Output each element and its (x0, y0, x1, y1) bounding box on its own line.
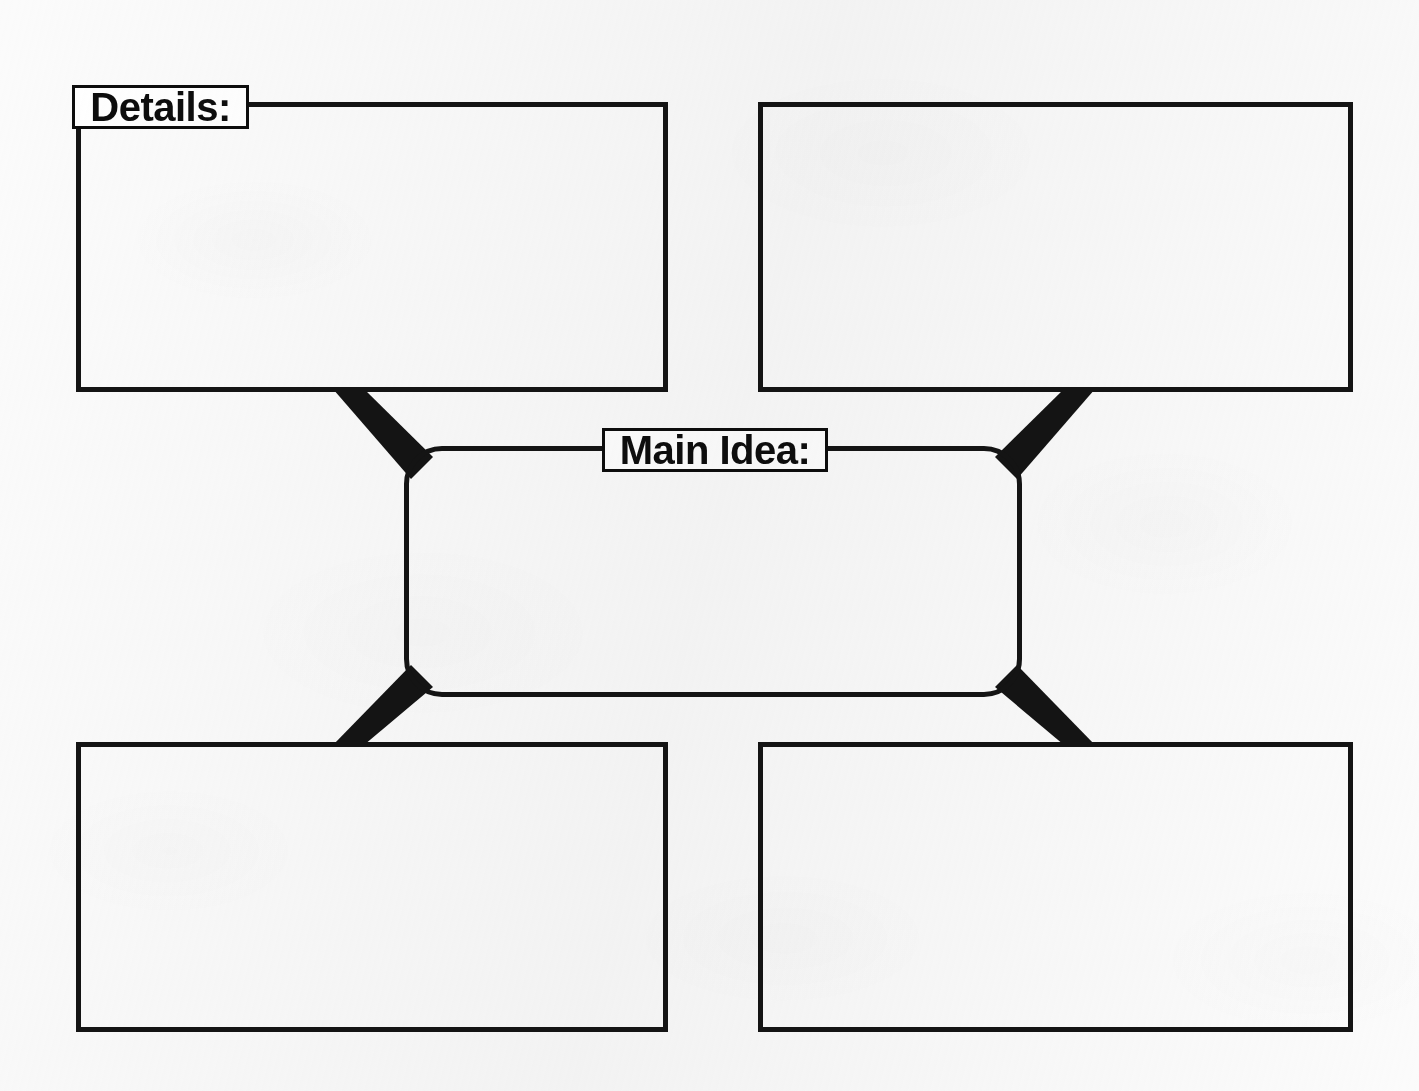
main-idea-label: Main Idea: (602, 428, 828, 472)
worksheet-page: Details: Main Idea: (0, 0, 1419, 1091)
detail-box-bottom-right[interactable] (758, 742, 1353, 1032)
detail-box-top-right[interactable] (758, 102, 1353, 392)
main-idea-box[interactable] (404, 446, 1022, 697)
detail-box-bottom-left[interactable] (76, 742, 668, 1032)
details-label: Details: (72, 85, 249, 129)
detail-box-top-left[interactable] (76, 102, 668, 392)
